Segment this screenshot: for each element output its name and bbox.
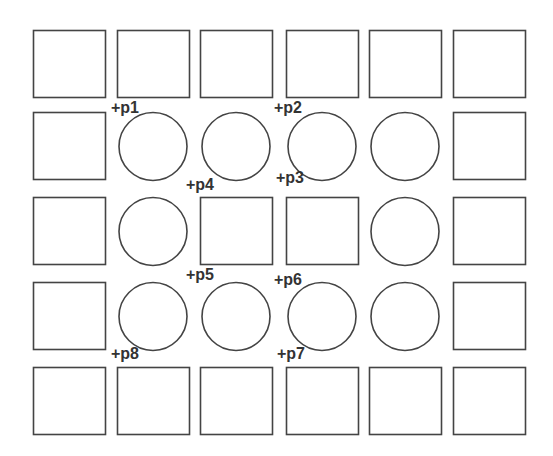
square-shape (118, 368, 190, 435)
square-shape (287, 368, 359, 435)
point-label-p1: +p1 (111, 100, 139, 116)
circle-shape (371, 283, 439, 351)
square-shape (454, 368, 526, 435)
point-label-p5: +p5 (186, 267, 214, 283)
point-label-p7: +p7 (277, 346, 305, 362)
point-label-p2: +p2 (274, 100, 302, 116)
point-label-p3: +p3 (276, 170, 304, 186)
point-label-p8: +p8 (111, 346, 139, 362)
square-shape (34, 283, 106, 350)
circle-shape (119, 283, 187, 351)
square-shape (287, 198, 359, 265)
circle-shape (202, 113, 270, 181)
square-shape (34, 368, 106, 435)
square-shape (34, 113, 106, 180)
square-shape (201, 198, 273, 265)
square-shape (370, 31, 442, 98)
circle-shape (202, 283, 270, 351)
square-shape (454, 198, 526, 265)
square-shape (201, 368, 273, 435)
circle-shape (119, 198, 187, 266)
point-label-p4: +p4 (186, 177, 214, 193)
circle-shape (288, 283, 356, 351)
square-shape (34, 198, 106, 265)
circle-shape (371, 198, 439, 266)
square-shape (201, 31, 273, 98)
diagram-canvas (0, 0, 553, 456)
square-shape (118, 31, 190, 98)
square-shape (287, 31, 359, 98)
square-shape (454, 283, 526, 350)
circle-shape (371, 113, 439, 181)
square-shape (454, 113, 526, 180)
square-shape (370, 368, 442, 435)
square-shape (454, 31, 526, 98)
circle-shape (119, 113, 187, 181)
square-shape (34, 31, 106, 98)
point-label-p6: +p6 (274, 272, 302, 288)
